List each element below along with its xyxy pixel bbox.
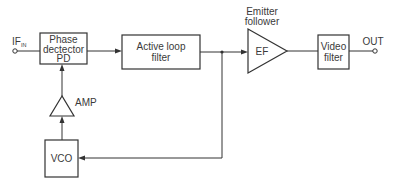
vco-block: VCO (45, 140, 78, 177)
pd-label-line3: PD (57, 53, 71, 64)
arrow-head-icon (115, 49, 122, 54)
amp-label: AMP (75, 97, 97, 108)
arrow-head-icon (78, 156, 85, 161)
amp-block: AMP (50, 96, 97, 116)
filter-label-line2: filter (152, 52, 172, 63)
video-filter-block: Video filter (318, 35, 349, 69)
filter-label-line1: Active loop (137, 41, 186, 52)
arrow-head-icon (60, 116, 65, 123)
arrow-head-icon (60, 64, 65, 71)
input-terminal-circle (13, 49, 17, 53)
pll-block-diagram: IFIN Phase dectector PD Active loop filt… (0, 0, 395, 185)
output-terminal-circle (373, 49, 377, 53)
video-filter-label-line1: Video (321, 41, 347, 52)
output-label: OUT (362, 36, 383, 47)
phase-detector-block: Phase dectector PD (40, 33, 87, 64)
arrow-head-icon (241, 50, 248, 55)
active-loop-filter-block: Active loop filter (122, 35, 200, 69)
amp-triangle (50, 96, 74, 116)
emitter-follower-block: Emitter follower EF (245, 6, 287, 73)
ef-caption-line2: follower (245, 16, 280, 27)
input-label: IFIN (12, 36, 26, 48)
ef-label: EF (256, 46, 269, 57)
video-filter-label-line2: filter (324, 52, 344, 63)
vco-label: VCO (51, 153, 73, 164)
